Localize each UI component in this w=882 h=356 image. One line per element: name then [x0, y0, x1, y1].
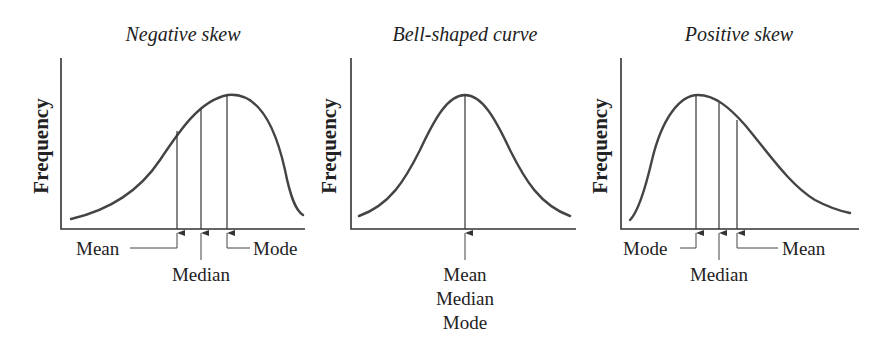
y-axis-label: Frequency [588, 98, 612, 194]
mode-label: Mode [253, 238, 297, 259]
mode-label: Mode [443, 312, 487, 333]
mean-pointer [737, 233, 778, 248]
mean-label: Mean [782, 238, 826, 259]
y-axis-label: Frequency [317, 98, 341, 194]
mode-label: Mode [623, 238, 667, 259]
median-label: Median [172, 264, 231, 285]
panel-title: Bell-shaped curve [393, 23, 538, 46]
mean-label: Mean [76, 238, 120, 259]
median-label: Median [690, 264, 749, 285]
y-axis-label: Frequency [29, 98, 53, 194]
mean-label: Mean [443, 264, 487, 285]
mode-pointer [680, 233, 696, 248]
axes [61, 58, 305, 229]
panel-negative-skew: Negative skew Frequency Mean Median Mode [29, 23, 305, 285]
distribution-curve [71, 95, 303, 219]
mean-pointer [130, 233, 177, 248]
panel-title: Negative skew [125, 23, 242, 46]
panel-bell-shaped-curve: Bell-shaped curve Frequency Mean Median … [317, 23, 576, 333]
axes [351, 58, 576, 229]
panel-title: Positive skew [684, 23, 794, 45]
distribution-curve [630, 95, 850, 220]
mode-pointer [227, 233, 250, 248]
panel-positive-skew: Positive skew Frequency Mode Median Mean [588, 23, 859, 285]
median-label: Median [436, 288, 495, 309]
skewness-figure: Negative skew Frequency Mean Median Mode… [0, 0, 882, 356]
